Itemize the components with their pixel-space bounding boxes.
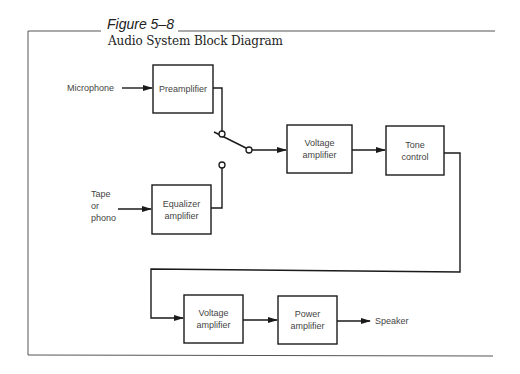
tone-text-2: control — [401, 151, 428, 163]
voltage-amplifier-2-label: Voltage amplifier — [184, 295, 243, 343]
diagram-page: Figure 5–8 Audio System Block Diagram Mi… — [0, 0, 520, 374]
voltage-amp-1-text-1: Voltage — [304, 137, 334, 149]
tape-line-3: phono — [91, 212, 116, 224]
tone-control-label: Tone control — [386, 126, 444, 175]
speaker-label: Speaker — [375, 316, 409, 327]
tape-line-1: Tape — [91, 188, 116, 200]
voltage-amp-2-text-1: Voltage — [198, 307, 228, 319]
tone-text-1: Tone — [405, 139, 425, 151]
equalizer-text-2: amplifier — [164, 210, 198, 222]
preamplifier-text: Preamplifier — [159, 83, 207, 95]
tape-line-2: or — [91, 200, 116, 212]
power-text-1: Power — [295, 308, 321, 320]
voltage-amp-2-text-2: amplifier — [196, 319, 230, 331]
figure-number: Figure 5–8 — [107, 16, 174, 32]
figure-title: Audio System Block Diagram — [108, 34, 283, 48]
power-amplifier-label: Power amplifier — [278, 296, 337, 344]
voltage-amplifier-1-label: Voltage amplifier — [287, 125, 352, 173]
preamplifier-label: Preamplifier — [153, 65, 213, 113]
microphone-label: Microphone — [67, 83, 114, 94]
tape-label: Tape or phono — [91, 188, 116, 224]
power-text-2: amplifier — [290, 320, 324, 332]
voltage-amp-1-text-2: amplifier — [302, 149, 336, 161]
equalizer-text-1: Equalizer — [163, 198, 201, 210]
equalizer-label: Equalizer amplifier — [152, 185, 211, 234]
diagram-lines — [0, 0, 520, 374]
selector-switch — [219, 131, 252, 168]
